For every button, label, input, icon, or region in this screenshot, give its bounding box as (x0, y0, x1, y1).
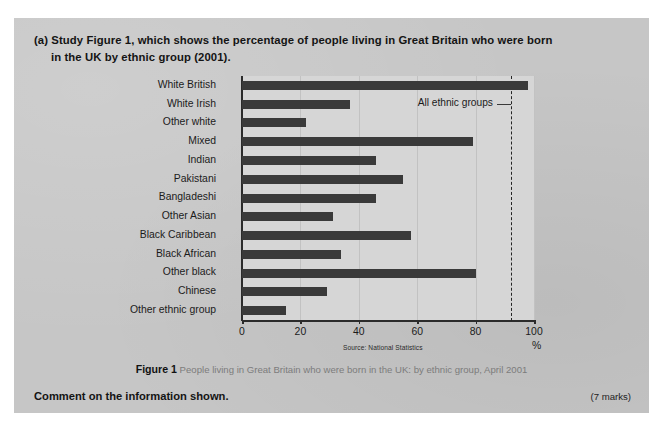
question-text: (a) Study Figure 1, which shows the perc… (34, 32, 629, 65)
annotation-label: All ethnic groups (418, 97, 493, 108)
bar (242, 194, 376, 203)
category-label: Chinese (56, 285, 216, 296)
marks-allocation: (7 marks) (590, 391, 631, 402)
question-footer: Comment on the information shown. (7 mar… (34, 390, 631, 402)
bar (242, 118, 306, 127)
category-label: Bangladeshi (56, 191, 216, 202)
x-axis-tick-label: 20 (295, 326, 307, 337)
x-axis-tick-label: 60 (411, 326, 423, 337)
x-axis-tick (417, 320, 419, 324)
category-label: Black Caribbean (56, 229, 216, 240)
x-axis-tick (476, 320, 478, 324)
all-ethnic-groups-reference-line (511, 76, 512, 321)
category-label: White Irish (56, 98, 216, 109)
bar (242, 156, 376, 165)
category-label: Indian (56, 154, 216, 165)
category-label: Other white (56, 116, 216, 127)
figure-label: Figure 1 (136, 363, 177, 375)
bar (242, 81, 528, 90)
question-line-1: (a) Study Figure 1, which shows the perc… (34, 34, 552, 46)
figure-caption-text: People living in Great Britain who were … (180, 364, 528, 375)
x-axis-line (242, 320, 535, 322)
x-axis-tick-label: 80 (470, 326, 482, 337)
category-label: Pakistani (56, 173, 216, 184)
bar-chart: All ethnic groups % Source: National Sta… (122, 70, 634, 355)
bar (242, 212, 333, 221)
category-label: Other black (56, 266, 216, 277)
x-axis-tick-label: 100 (525, 326, 542, 337)
x-axis-unit-label: % (532, 340, 541, 351)
bar (242, 250, 341, 259)
grid-line (534, 76, 535, 320)
grid-line (476, 76, 477, 320)
bar (242, 231, 411, 240)
bar (242, 269, 476, 278)
question-line-2: in the UK by ethnic group (2001). (34, 49, 629, 66)
x-axis-tick (359, 320, 361, 324)
figure-caption: Figure 1 People living in Great Britain … (14, 363, 649, 375)
x-axis-tick (242, 320, 244, 324)
chart-source-note: Source: National Statistics (343, 344, 423, 351)
category-label: Other Asian (56, 210, 216, 221)
bar (242, 287, 327, 296)
comment-instruction: Comment on the information shown. (34, 390, 229, 402)
exam-question-page: (a) Study Figure 1, which shows the perc… (14, 18, 649, 413)
bar (242, 306, 286, 315)
x-axis-tick (534, 320, 536, 324)
annotation-leader-line (497, 104, 511, 105)
category-label: Other ethnic group (56, 304, 216, 315)
bar (242, 137, 473, 146)
bar (242, 175, 403, 184)
category-label: Black African (56, 248, 216, 259)
grid-line (417, 76, 418, 320)
category-label: White British (56, 79, 216, 90)
category-label: Mixed (56, 135, 216, 146)
x-axis-tick-label: 0 (239, 326, 245, 337)
x-axis-tick-label: 40 (353, 326, 365, 337)
bar (242, 100, 350, 109)
x-axis-tick (300, 320, 302, 324)
